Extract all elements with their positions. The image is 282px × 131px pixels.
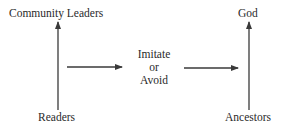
label-ancestors: Ancestors xyxy=(225,112,271,124)
label-imitate: Imitate xyxy=(128,48,180,61)
label-or: or xyxy=(128,61,180,74)
label-imitate-or-avoid: Imitate or Avoid xyxy=(128,48,180,87)
label-community-leaders: Community Leaders xyxy=(9,8,103,20)
label-readers: Readers xyxy=(38,112,75,124)
label-god: God xyxy=(238,8,258,20)
label-avoid: Avoid xyxy=(128,74,180,87)
